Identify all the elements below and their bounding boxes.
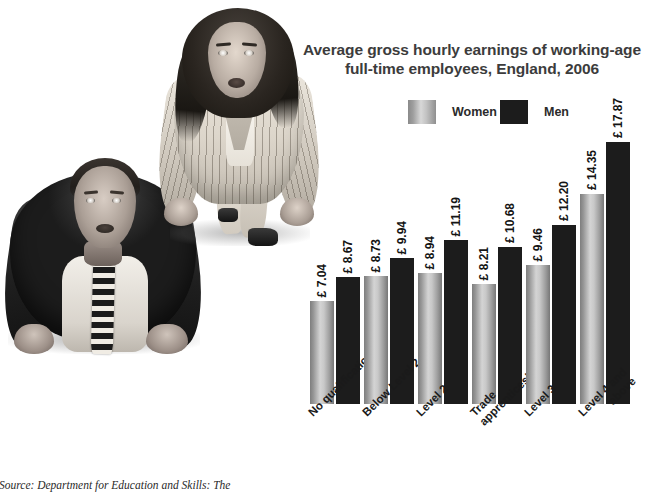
woman-right-shoe [248, 228, 278, 246]
bar-women: £ 9.46 [526, 265, 550, 404]
bar-value-label: £ 8.94 [418, 236, 442, 269]
man-left-eye [86, 198, 95, 203]
man-right-hand [146, 324, 188, 354]
woman-left-eye [218, 50, 228, 56]
bar-value-label: £ 8.67 [336, 240, 360, 273]
bar-women: £ 14.35 [580, 194, 604, 404]
infographic-canvas: Average gross hourly earnings of working… [0, 0, 658, 499]
bar-value-label: £ 10.68 [498, 203, 522, 243]
bar-value-label: £ 8.21 [472, 247, 496, 280]
woman-left-hand [164, 198, 198, 226]
bar-value-label: £ 12.20 [552, 181, 576, 221]
bar-group: £ 9.46£ 12.20 [526, 142, 576, 404]
bar-value-label: £ 9.46 [526, 228, 550, 261]
bar-men: £ 17.87 [606, 142, 630, 404]
bar-value-label: £ 14.35 [580, 150, 604, 190]
bar-group: £ 14.35£ 17.87 [580, 142, 630, 404]
bar-value-label: £ 17.87 [606, 98, 630, 138]
woman-mouth [228, 78, 245, 88]
bar-value-label: £ 8.73 [364, 239, 388, 272]
bar-value-label: £ 11.19 [444, 197, 468, 236]
man-right-eye [112, 198, 121, 203]
bar-group: £ 8.94£ 11.19 [418, 142, 468, 404]
man-left-hand [14, 324, 54, 354]
bar-chart: Average gross hourly earnings of working… [280, 0, 658, 499]
bar-value-label: £ 9.94 [390, 221, 414, 254]
woman-right-eye [244, 50, 254, 56]
woman-left-shoe [218, 208, 238, 222]
bar-value-label: £ 7.04 [310, 264, 334, 297]
source-note: Source: Department for Education and Ski… [0, 479, 230, 491]
bar-men: £ 12.20 [552, 225, 576, 404]
man-striped-tie [91, 262, 115, 355]
bar-men: £ 11.19 [444, 240, 468, 404]
man-mouth [96, 224, 114, 233]
plot-area: £ 7.04£ 8.67No qualifications£ 8.73£ 9.9… [280, 0, 658, 499]
